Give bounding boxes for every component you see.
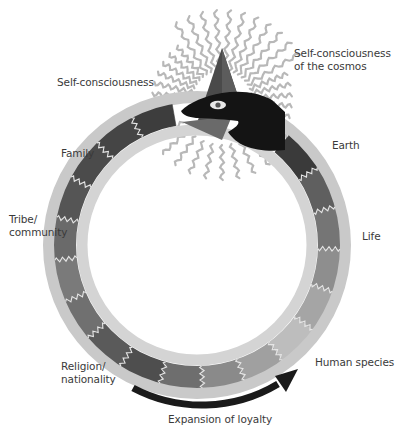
label-human-species: Human species xyxy=(315,356,394,369)
label-religion: Religion/ nationality xyxy=(61,360,116,386)
label-expansion: Expansion of loyalty xyxy=(168,413,272,426)
label-cosmos: Self-consciousness of the cosmos xyxy=(294,47,391,73)
label-life: Life xyxy=(362,230,381,243)
label-family: Family xyxy=(61,147,94,160)
label-self-consciousness: Self-consciousness xyxy=(57,76,154,89)
outer-ring xyxy=(49,97,345,393)
label-tribe: Tribe/ community xyxy=(9,213,67,239)
label-earth: Earth xyxy=(332,139,360,152)
eye-pupil xyxy=(215,102,220,107)
inner-ring xyxy=(82,130,312,360)
